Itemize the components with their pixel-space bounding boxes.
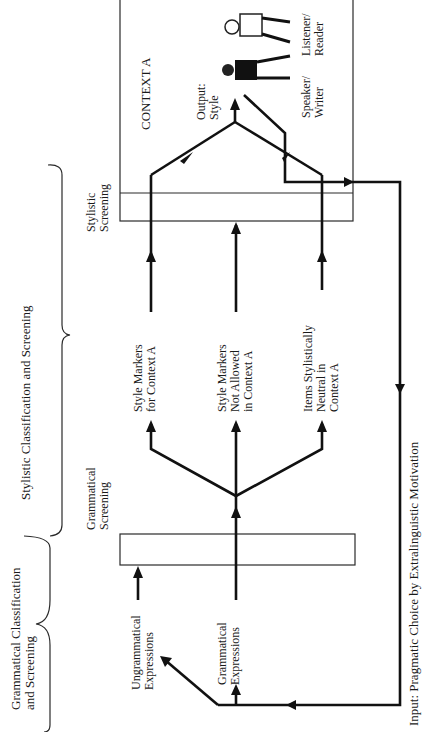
stylistic-bracket-label: Stylistic Classification and Screening <box>18 305 33 500</box>
stylistic-bracket <box>48 165 70 536</box>
arrow-left-icon <box>286 700 296 710</box>
output-label: Output:Style <box>194 83 221 120</box>
stylistic-screen-label: StylisticScreening <box>84 184 111 232</box>
arrow-up-icon <box>317 420 327 432</box>
input-path <box>218 182 400 705</box>
listener-figure-icon <box>225 14 290 42</box>
listener-label: Listener/Reader <box>299 13 326 56</box>
grammatical-screen-label: GrammaticalScreening <box>84 467 111 530</box>
merge-right <box>235 122 322 175</box>
grammatical-expr-label: GrammaticalExpressions <box>215 622 242 685</box>
not-allowed-label: Style MarkersNot Allowedin Context A <box>215 344 255 412</box>
ungrammatical-label: UngrammaticalExpressions <box>129 615 156 690</box>
merge-left <box>151 122 235 175</box>
arrow-up-icon <box>231 506 241 518</box>
speaker-label: Speaker/Writer <box>299 75 326 118</box>
arrow-up-icon <box>133 566 143 578</box>
speaker-figure-icon <box>222 56 290 80</box>
input-label: Input: Pragmatic Choice by Extralinguist… <box>406 441 421 726</box>
arrow-up-icon <box>231 222 241 234</box>
neutral-label: Items StylisticallyNeutral inContext A <box>301 325 341 412</box>
fork-left <box>151 424 236 496</box>
style-markers-label: Style Markersfor Context A <box>131 344 158 412</box>
arrow-up-icon <box>230 98 240 110</box>
ungrammatical-branch <box>165 660 218 705</box>
fork-right <box>236 424 322 496</box>
arrow-down-icon <box>395 384 405 394</box>
diagram-canvas: Grammatical Classification and Screening… <box>0 0 422 732</box>
arrow-up-icon <box>231 420 241 432</box>
arrow-up-icon <box>146 250 156 262</box>
context-title: CONTEXT A <box>138 57 153 130</box>
arrow-up-icon <box>146 420 156 432</box>
grammatical-screen-box <box>120 534 355 565</box>
grammatical-bracket-label: Grammatical Classification and Screening <box>8 564 37 710</box>
arrow-up-icon <box>317 250 327 262</box>
